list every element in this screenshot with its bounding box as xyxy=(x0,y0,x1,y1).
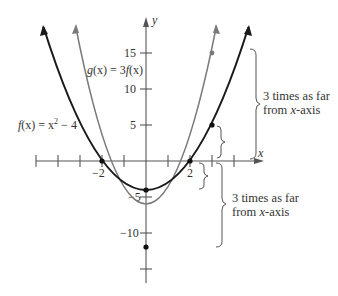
lower-annotation: 3 times as far from x-axis xyxy=(232,191,300,219)
point-x-intercept-2 xyxy=(187,158,192,163)
g-left-arrow-icon xyxy=(72,24,79,34)
f-function-label: f(x) = x2 − 4 xyxy=(18,117,77,132)
point-x-intercept-neg2 xyxy=(99,158,104,163)
x-axis-label: x xyxy=(257,146,264,160)
upper-small-brace xyxy=(217,126,225,158)
y-tick-label-neg10: −10 xyxy=(120,226,139,240)
upper-annotation-line1: 3 times as far xyxy=(263,89,331,103)
point-f-vertex xyxy=(143,187,148,192)
point-g-at-3 xyxy=(210,51,215,56)
y-axis-arrow-icon xyxy=(143,17,149,27)
y-axis-label: y xyxy=(151,13,158,27)
x-tick-label-2: 2 xyxy=(187,166,193,180)
upper-annotation-line2: from x-axis xyxy=(263,103,320,117)
x-tick-label-neg2: −2 xyxy=(92,166,105,180)
lower-large-brace xyxy=(216,163,226,247)
y-tick-label-5: 5 xyxy=(130,118,136,132)
upper-annotation: 3 times as far from x-axis xyxy=(263,89,331,117)
point-g-vertex xyxy=(143,244,148,249)
upper-large-brace xyxy=(250,49,260,159)
lower-annotation-line2: from x-axis xyxy=(232,205,289,219)
y-tick-label-10: 10 xyxy=(124,82,136,96)
point-f-at-3 xyxy=(209,122,214,127)
y-tick-label-15: 15 xyxy=(124,46,136,60)
function-graph: x y −2 2 15 10 5 −5 −10 f(x) = x2 − 4 g(… xyxy=(0,0,338,296)
g-function-label: g(x) = 3f(x) xyxy=(87,63,143,77)
y-axis xyxy=(140,17,152,283)
lower-annotation-line1: 3 times as far xyxy=(232,191,300,205)
g-right-arrow-icon xyxy=(213,24,220,34)
lower-small-brace xyxy=(199,163,208,189)
x-axis xyxy=(36,155,264,167)
